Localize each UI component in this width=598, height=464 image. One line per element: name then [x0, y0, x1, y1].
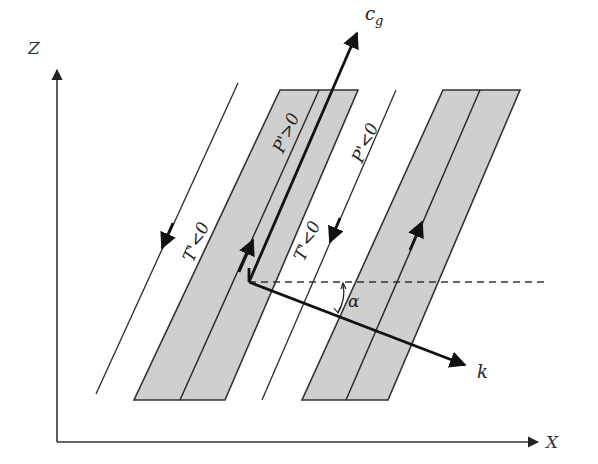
wave-energy-flux-diagram: Z X α cg k P'>0 P'<0 T'<0 T'<0	[0, 0, 598, 464]
cg-label-sub: g	[375, 13, 383, 28]
cg-label-main: c	[365, 3, 375, 24]
k-label: k	[477, 361, 488, 382]
z-axis-label: Z	[27, 38, 41, 58]
line-left-flow-arrow	[162, 223, 173, 248]
alpha-label: α	[348, 291, 360, 311]
p-negative-label: P'<0	[347, 120, 382, 167]
cg-label: cg	[365, 3, 383, 28]
x-axis-label: X	[544, 432, 559, 452]
angle-arc-tip-bottom	[334, 307, 341, 313]
line-middle-flow-arrow	[330, 218, 340, 242]
